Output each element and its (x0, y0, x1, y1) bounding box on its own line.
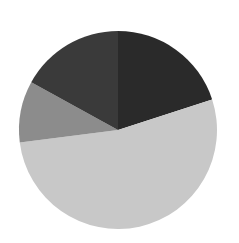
pie-chart (0, 0, 239, 243)
pie-slices (19, 31, 217, 229)
